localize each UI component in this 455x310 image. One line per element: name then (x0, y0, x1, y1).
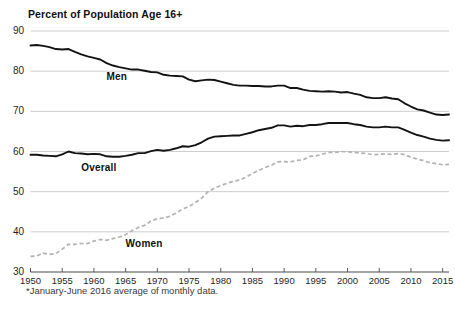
x-tick-label-1990: 1990 (267, 276, 301, 286)
series-label-overall: Overall (81, 162, 116, 173)
series-label-women: Women (126, 238, 163, 249)
series-label-men: Men (107, 71, 128, 82)
x-tick-label-2005: 2005 (362, 276, 396, 286)
x-tick-label-2010: 2010 (394, 276, 428, 286)
chart-footnote: *January-June 2016 average of monthly da… (26, 285, 218, 296)
x-tick-label-1995: 1995 (299, 276, 333, 286)
y-tick-label-60: 60 (2, 147, 24, 157)
y-tick-label-40: 40 (2, 227, 24, 237)
y-tick-label-50: 50 (2, 187, 24, 197)
chart-title: Percent of Population Age 16+ (28, 8, 183, 20)
x-tick-label-2015: 2015 (426, 276, 455, 286)
chart-plot-area (0, 0, 455, 310)
series-line-men (31, 45, 450, 115)
y-tick-label-80: 80 (2, 66, 24, 76)
x-tick-label-1985: 1985 (235, 276, 269, 286)
y-tick-label-70: 70 (2, 106, 24, 116)
chart-figure: Percent of Population Age 16+ 3040506070… (0, 0, 455, 310)
y-tick-label-90: 90 (2, 26, 24, 36)
x-tick-label-2000: 2000 (331, 276, 365, 286)
